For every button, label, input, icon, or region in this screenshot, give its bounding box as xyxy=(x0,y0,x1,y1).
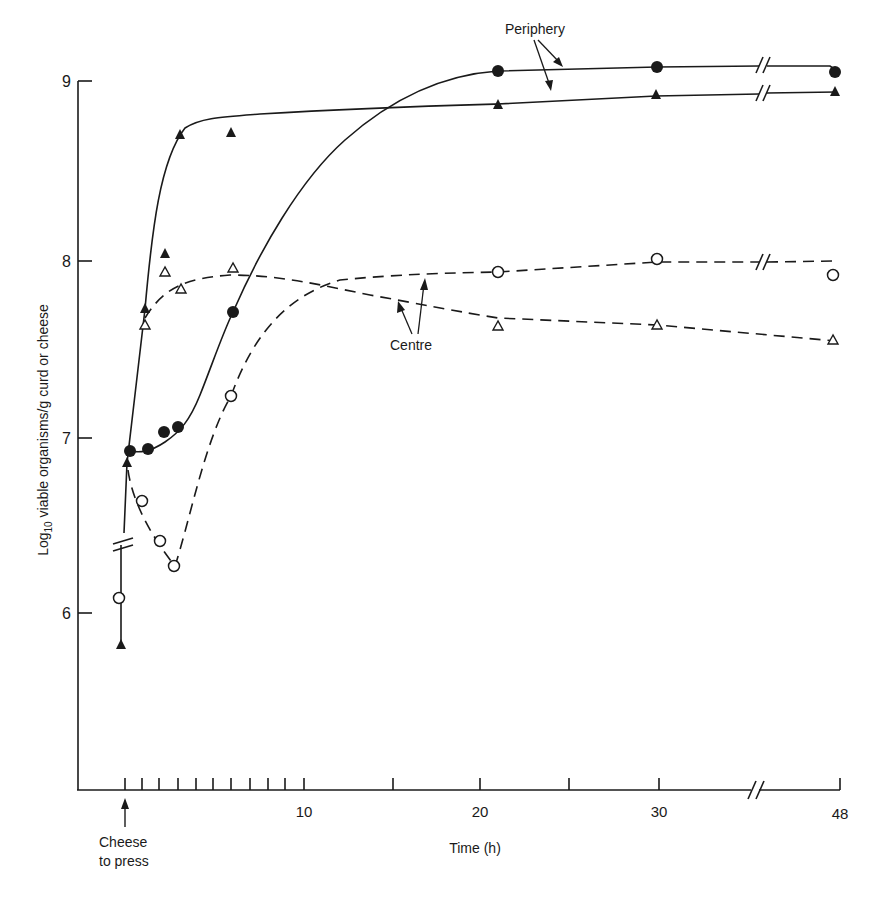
arrow-icon xyxy=(397,301,405,313)
x-axis xyxy=(77,778,840,799)
y-tick-7: 7 xyxy=(62,430,71,447)
cheese-to-press-annotation: Cheese to press xyxy=(99,798,149,869)
periphery-annotation: Periphery xyxy=(505,21,565,91)
y-tick-6: 6 xyxy=(62,605,71,622)
arrow-icon xyxy=(420,278,428,290)
x-axis-label: Time (h) xyxy=(449,840,501,856)
arrow-icon xyxy=(553,57,563,67)
y-axis xyxy=(78,81,92,790)
y-axis-label: Log10 viable organisms/g curd or cheese xyxy=(35,304,54,556)
arrow-up-icon xyxy=(121,798,129,809)
markers-centre-circles xyxy=(114,254,839,604)
svg-text:Periphery: Periphery xyxy=(505,21,565,37)
x-tick-30: 30 xyxy=(651,803,668,820)
x-tick-48: 48 xyxy=(832,805,849,822)
curve-centre-triangles xyxy=(145,275,836,341)
svg-text:to press: to press xyxy=(99,853,149,869)
markers-periphery-triangles xyxy=(116,86,840,649)
x-tick-20: 20 xyxy=(472,803,489,820)
svg-text:Cheese: Cheese xyxy=(99,834,147,850)
y-tick-labels: 9 8 7 6 xyxy=(62,73,71,622)
x-tick-10: 10 xyxy=(296,803,313,820)
y-tick-9: 9 xyxy=(62,73,71,90)
viable-organisms-chart: 9 8 7 6 Log10 viable organisms/g curd or… xyxy=(0,0,880,897)
svg-text:Centre: Centre xyxy=(390,337,432,353)
y-tick-8: 8 xyxy=(62,253,71,270)
x-tick-labels: 10 20 30 48 xyxy=(296,803,849,822)
curve-periphery-triangles xyxy=(113,85,836,645)
centre-annotation: Centre xyxy=(390,278,432,353)
arrow-icon xyxy=(545,80,553,91)
